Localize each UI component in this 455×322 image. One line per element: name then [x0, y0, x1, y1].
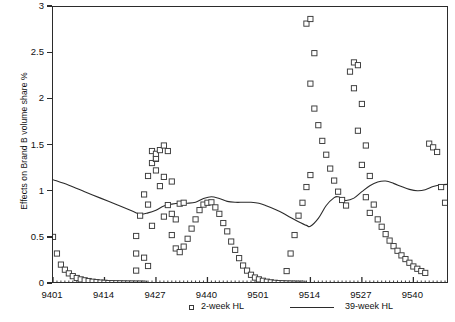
- data-point-marker: [177, 250, 182, 255]
- data-point-marker: [332, 178, 337, 183]
- data-point-marker: [304, 184, 309, 189]
- data-point-marker: [169, 232, 174, 237]
- data-point-marker: [387, 238, 392, 243]
- data-point-marker: [379, 224, 384, 229]
- data-point-marker: [423, 270, 428, 275]
- data-point-marker: [225, 229, 230, 234]
- data-point-marker: [193, 217, 198, 222]
- data-point-marker: [237, 256, 242, 261]
- data-point-marker: [221, 220, 226, 225]
- x-tick-label: 9414: [80, 289, 126, 300]
- data-point-marker: [141, 281, 146, 283]
- data-point-marker: [383, 232, 388, 237]
- data-point-marker: [367, 210, 372, 215]
- data-point-marker: [355, 63, 360, 68]
- y-tick-label: 2.5: [14, 46, 44, 57]
- data-point-marker: [229, 239, 234, 244]
- x-axis-tick-marks: [53, 277, 448, 283]
- data-point-marker: [173, 217, 178, 222]
- data-point-marker: [169, 179, 174, 184]
- legend-label-39-week-hl: 39-week HL: [345, 301, 393, 311]
- data-point-marker: [165, 148, 170, 153]
- x-tick-label: 9440: [183, 289, 229, 300]
- data-point-marker: [189, 226, 194, 231]
- plot-canvas: [53, 7, 448, 283]
- data-point-marker: [54, 251, 59, 256]
- data-point-marker: [339, 197, 344, 202]
- data-point-marker: [134, 251, 139, 256]
- legend-label-2-week-hl: 2-week HL: [201, 301, 244, 311]
- data-point-marker: [213, 205, 218, 210]
- data-point-marker: [141, 255, 146, 260]
- data-point-marker: [153, 168, 158, 173]
- data-point-marker: [316, 123, 321, 128]
- data-point-marker: [157, 184, 162, 189]
- data-point-marker: [288, 251, 293, 256]
- y-tick-label: 1: [14, 185, 44, 196]
- data-point-marker: [181, 244, 186, 249]
- chart-figure: Effects on Brand B volume share % 00.511…: [0, 0, 455, 322]
- data-point-marker: [169, 211, 174, 216]
- data-point-marker: [300, 281, 305, 283]
- data-point-marker: [240, 263, 245, 268]
- data-point-marker: [292, 232, 297, 237]
- data-point-marker: [367, 173, 372, 178]
- data-point-marker: [197, 208, 202, 213]
- x-tick-label: 9427: [132, 289, 178, 300]
- x-tick-label: 9514: [286, 289, 332, 300]
- y-tick-label: 1.5: [14, 139, 44, 150]
- data-point-marker: [442, 200, 447, 205]
- data-point-marker: [138, 213, 143, 218]
- data-point-marker: [233, 247, 238, 252]
- y-tick-label: 3: [14, 0, 44, 11]
- data-point-marker: [347, 69, 352, 74]
- data-point-marker: [312, 106, 317, 111]
- data-point-marker: [324, 152, 329, 157]
- data-point-marker: [145, 202, 150, 207]
- data-point-marker: [149, 223, 154, 228]
- data-point-marker: [375, 217, 380, 222]
- x-tick-label: 9527: [338, 289, 384, 300]
- data-point-marker: [141, 192, 146, 197]
- plot-area: [52, 6, 448, 283]
- y-tick-label: 0.5: [14, 231, 44, 242]
- x-tick-label: 9501: [235, 289, 281, 300]
- data-point-marker: [300, 200, 305, 205]
- data-point-marker: [359, 101, 364, 106]
- data-point-marker: [363, 195, 368, 200]
- data-point-marker: [145, 263, 150, 268]
- data-point-marker: [320, 138, 325, 143]
- series-2-week-hl-markers: [53, 16, 448, 283]
- data-point-marker: [284, 268, 289, 273]
- y-tick-label: 2: [14, 92, 44, 103]
- y-tick-label: 0: [14, 277, 44, 288]
- data-point-marker: [165, 202, 170, 207]
- data-point-marker: [312, 51, 317, 56]
- chart-legend: 2-week HL 39-week HL: [0, 300, 455, 318]
- series-39-week-hl-line: [53, 180, 448, 227]
- data-point-marker: [58, 262, 63, 267]
- data-point-marker: [185, 236, 190, 241]
- data-point-marker: [209, 200, 214, 205]
- data-point-marker: [435, 149, 440, 154]
- legend-marker-2-week-hl: [189, 305, 194, 310]
- data-point-marker: [308, 16, 313, 21]
- data-point-marker: [217, 211, 222, 216]
- data-point-marker: [438, 184, 443, 189]
- data-point-marker: [363, 143, 368, 148]
- data-point-marker: [181, 200, 186, 205]
- data-point-marker: [53, 234, 56, 239]
- data-point-marker: [371, 202, 376, 207]
- line-39-week-hl: [53, 180, 448, 227]
- data-point-marker: [336, 189, 341, 194]
- data-point-marker: [161, 174, 166, 179]
- data-point-marker: [161, 214, 166, 219]
- x-tick-label: 9540: [389, 289, 435, 300]
- data-point-marker: [296, 213, 301, 218]
- x-tick-label: 9401: [29, 289, 75, 300]
- data-point-marker: [351, 86, 356, 91]
- data-point-marker: [134, 233, 139, 238]
- data-point-marker: [355, 128, 360, 133]
- legend-marker-39-week-hl: [290, 307, 334, 308]
- data-point-marker: [308, 172, 313, 177]
